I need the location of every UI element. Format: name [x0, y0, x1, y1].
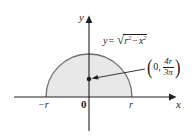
coordinate-y-fraction: 4r3π	[163, 57, 174, 77]
semicircle-centroid-figure: y x −r 0 r y = √ r2−x2 (0,4r3π)	[0, 0, 194, 139]
coordinate-close-paren: )	[175, 58, 180, 77]
curve-equation-label: y = √ r2−x2	[103, 34, 147, 48]
y-axis-label: y	[79, 12, 84, 23]
radical-expression: √ r2−x2	[117, 34, 147, 48]
centroid-point-marker	[87, 77, 92, 82]
y-axis-arrowhead	[86, 16, 93, 24]
coordinate-open-paren: (	[147, 58, 152, 77]
fraction-numerator: 4r	[163, 57, 173, 67]
radicand-exponent-x: 2	[143, 34, 146, 41]
x-tick-label-negative-r: −r	[38, 100, 49, 110]
radicand-expression: r2−x2	[123, 34, 147, 48]
fraction-denominator: 3π	[163, 67, 174, 78]
x-axis-label: x	[176, 99, 181, 110]
centroid-coordinate-label: (0,4r3π)	[146, 57, 181, 77]
radicand-minus-sign: −	[131, 35, 139, 46]
origin-label: 0	[81, 99, 87, 110]
coordinate-contents: 0,4r3π	[153, 57, 174, 77]
equation-equals-sign: =	[107, 36, 115, 46]
x-tick-label-r: r	[129, 100, 133, 110]
equation-row: y = √ r2−x2	[103, 34, 147, 48]
